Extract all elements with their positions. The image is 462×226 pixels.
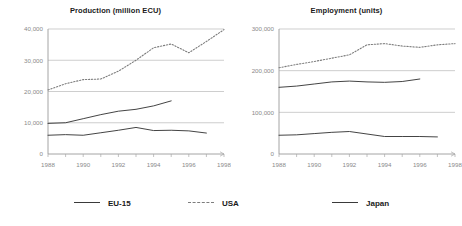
plot-area-production: 010,00020,00030,00040,000198819901992199…	[0, 0, 231, 182]
x-axis-tick-label: 1998	[448, 161, 462, 168]
y-axis-tick-label: 300,000	[252, 25, 275, 32]
chart-figure: Production (million ECU) 010,00020,00030…	[0, 0, 462, 226]
y-axis-tick-label: 10,000	[24, 119, 43, 126]
series-line-usa	[279, 44, 455, 68]
charts-row: Production (million ECU) 010,00020,00030…	[0, 0, 462, 182]
x-axis-tick-label: 1998	[217, 161, 231, 168]
x-axis-tick-label: 1994	[378, 161, 392, 168]
series-line-japan	[48, 127, 206, 135]
series-line-eu-15	[48, 101, 171, 124]
series-line-japan	[279, 132, 437, 137]
legend-label-eu15: EU-15	[108, 199, 131, 208]
y-axis-tick-label: 40,000	[24, 25, 43, 32]
legend-label-japan: Japan	[366, 199, 389, 208]
legend-item-japan: Japan	[310, 199, 462, 208]
y-axis-tick-label: 0	[40, 150, 44, 157]
x-axis-tick-label: 1988	[41, 161, 55, 168]
legend-label-usa: USA	[222, 199, 239, 208]
x-axis-tick-label: 1990	[307, 161, 321, 168]
x-axis-tick-label: 1996	[413, 161, 427, 168]
y-axis-tick-label: 30,000	[24, 57, 43, 64]
legend-item-eu15: EU-15	[0, 199, 170, 208]
series-line-usa	[48, 30, 224, 90]
chart-panel-production: Production (million ECU) 010,00020,00030…	[0, 0, 231, 182]
series-line-eu-15	[279, 79, 420, 87]
legend-line-icon-usa	[188, 202, 214, 204]
legend-line-icon-eu15	[74, 202, 100, 204]
plot-area-employment: 0100,000200,000300,000198819901992199419…	[231, 0, 462, 182]
chart-panel-employment: Employment (units) 0100,000200,000300,00…	[231, 0, 462, 182]
y-axis-tick-label: 100,000	[252, 109, 275, 116]
x-axis-tick-label: 1990	[76, 161, 90, 168]
x-axis-tick-label: 1988	[272, 161, 286, 168]
x-axis-tick-label: 1992	[343, 161, 357, 168]
legend-item-usa: USA	[170, 199, 310, 208]
y-axis-tick-label: 0	[271, 150, 275, 157]
x-axis-tick-label: 1996	[182, 161, 196, 168]
y-axis-tick-label: 200,000	[252, 67, 275, 74]
legend-line-icon-japan	[332, 202, 358, 204]
chart-legend: EU-15 USA Japan	[0, 186, 462, 220]
x-axis-tick-label: 1992	[112, 161, 126, 168]
y-axis-tick-label: 20,000	[24, 88, 43, 95]
x-axis-tick-label: 1994	[147, 161, 161, 168]
